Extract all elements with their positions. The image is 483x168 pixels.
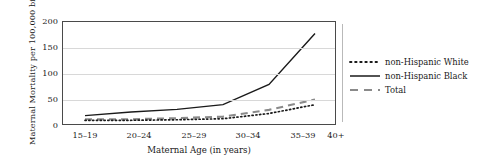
- x-tick-label-25-29: 25–29: [171, 130, 217, 140]
- legend-item-non-hispanic-black: non-Hispanic Black: [349, 69, 481, 82]
- legend-divider: [342, 24, 343, 122]
- legend-label-non-hispanic-white: non-Hispanic White: [385, 57, 469, 67]
- x-tick-label-15-19: 15–19: [62, 130, 108, 140]
- maternal-mortality-chart: Maternal Mortality per 100,000 births 20…: [0, 0, 483, 168]
- x-tick-label-40-plus: 40+: [313, 130, 359, 140]
- y-tick-label-150: 150: [32, 43, 58, 51]
- plot-area: [62, 21, 336, 125]
- gridline-150: [63, 48, 335, 49]
- legend-swatch-solid-icon: [349, 71, 381, 81]
- y-tick-label-50: 50: [32, 95, 58, 103]
- x-tick-label-20-24: 20–24: [116, 130, 162, 140]
- y-tick-label-0: 0: [32, 121, 58, 129]
- legend-swatch-dashed-icon: [349, 85, 381, 95]
- y-tick-label-100: 100: [32, 69, 58, 77]
- series-line-total: [85, 99, 315, 119]
- y-tick-label-200: 200: [32, 17, 58, 25]
- gridline-50: [63, 100, 335, 101]
- legend-label-non-hispanic-black: non-Hispanic Black: [385, 71, 467, 81]
- legend-label-total: Total: [385, 85, 406, 95]
- legend: non-Hispanic White non-Hispanic Black To…: [349, 55, 481, 97]
- gridline-100: [63, 74, 335, 75]
- legend-item-total: Total: [349, 83, 481, 96]
- legend-item-non-hispanic-white: non-Hispanic White: [349, 55, 481, 68]
- x-axis-title: Maternal Age (in years): [62, 145, 336, 155]
- legend-swatch-dotted-icon: [349, 57, 381, 67]
- x-tick-label-30-34: 30–34: [225, 130, 271, 140]
